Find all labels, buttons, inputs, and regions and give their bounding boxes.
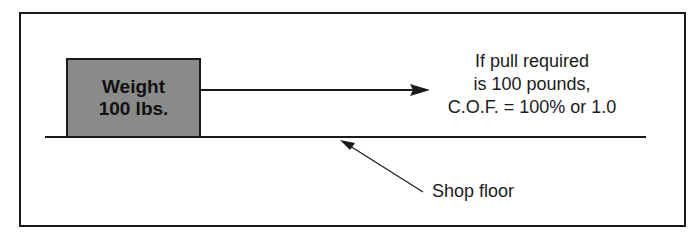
pull-text-line-2: is 100 pounds,: [412, 73, 652, 96]
floor-pointer-arrow-icon: [340, 140, 423, 192]
pull-text-line-3: C.O.F. = 100% or 1.0: [412, 96, 652, 119]
pull-text-line-1: If pull required: [412, 50, 652, 73]
weight-label: Weight: [102, 76, 165, 98]
shop-floor-label: Shop floor: [432, 181, 514, 202]
weight-box: Weight 100 lbs.: [66, 58, 201, 138]
pull-arrow-icon: [200, 84, 430, 96]
pull-description: If pull required is 100 pounds, C.O.F. =…: [412, 50, 652, 119]
weight-value: 100 lbs.: [99, 98, 169, 120]
